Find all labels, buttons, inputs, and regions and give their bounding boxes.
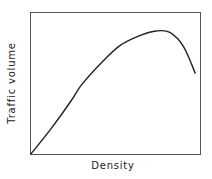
x-axis-label: Density xyxy=(91,160,135,171)
y-axis-label: Traffic volume xyxy=(6,42,17,124)
traffic-curve xyxy=(31,31,196,155)
plot-frame xyxy=(31,13,201,155)
chart-canvas xyxy=(0,0,212,179)
